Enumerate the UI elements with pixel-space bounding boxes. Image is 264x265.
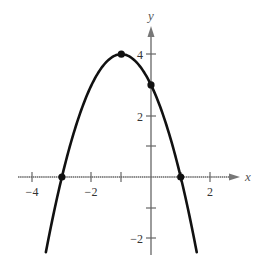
x-intercept-point bbox=[177, 173, 184, 180]
x-axis: −4 −2 2 x bbox=[18, 169, 251, 199]
y-axis: 4 2 −2 y bbox=[130, 8, 156, 255]
vertex-point bbox=[118, 51, 125, 58]
x-axis-arrow-icon bbox=[229, 174, 240, 181]
y-tick-label-neg2: −2 bbox=[130, 232, 143, 246]
x-intercept-point bbox=[58, 173, 65, 180]
y-tick-label-2: 2 bbox=[137, 110, 143, 124]
y-axis-arrow-icon bbox=[148, 26, 155, 37]
highlighted-points bbox=[58, 51, 184, 181]
y-intercept-point bbox=[147, 81, 154, 88]
y-tick-label-4: 4 bbox=[137, 48, 143, 62]
parabola-chart: −4 −2 2 x 4 2 −2 y bbox=[0, 0, 264, 265]
x-tick-label-2: 2 bbox=[207, 185, 213, 199]
x-tick-label-neg4: −4 bbox=[26, 185, 39, 199]
y-axis-label: y bbox=[146, 8, 154, 23]
parabola-curve bbox=[46, 54, 197, 252]
x-tick-label-neg2: −2 bbox=[85, 185, 98, 199]
x-axis-label: x bbox=[244, 169, 251, 184]
